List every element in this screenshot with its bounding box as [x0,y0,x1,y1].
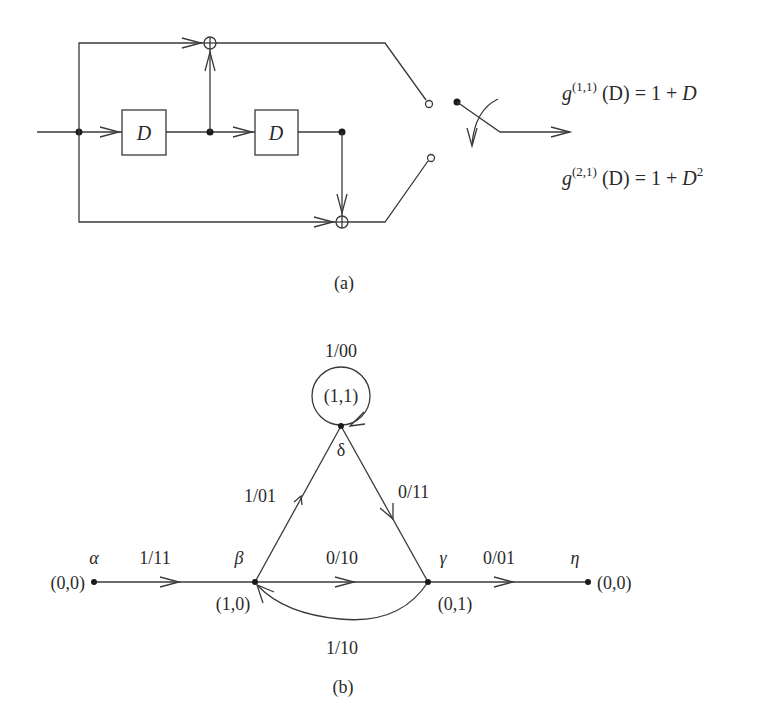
edge-label-delta-gamma: 0/11 [398,482,429,502]
node-gamma [425,579,431,585]
node-delta [338,423,344,429]
generator-1: g(1,1) (D) = 1 + D [562,79,697,105]
xor-adder-top [204,37,216,49]
node-beta [252,579,258,585]
edge-label-gamma-eta: 0/01 [483,548,515,568]
node-state-gamma: (0,1) [438,594,473,615]
edge-label-beta-gamma: 0/10 [326,548,358,568]
node-state-alpha: (0,0) [51,573,86,594]
node-label-alpha: α [89,548,99,568]
state-diagram: 1/11 1/01 1/00 (1,1) δ 0/11 0/10 1/10 0/… [51,341,632,698]
node-state-beta: (1,0) [216,594,251,615]
node-state-eta: (0,0) [597,573,632,594]
arrow-icon [350,412,365,426]
edge-label-delta-loop: 1/00 [325,341,357,361]
top-output-line [216,43,426,100]
node-label-delta: δ [337,440,345,460]
edge-label-beta-delta: 1/01 [244,486,276,506]
bottom-output-line [348,161,428,222]
node-alpha [91,579,97,585]
node-label-eta: η [571,548,580,568]
node-state-delta: (1,1) [324,386,359,407]
switch-contact-top [426,101,433,108]
switch-contact-bottom [428,155,435,162]
caption-a: (a) [334,273,354,294]
delay-label-2: D [268,122,284,144]
edge-label-alpha-beta: 1/11 [139,548,170,568]
xor-adder-bottom [336,216,348,228]
arrow-icon [380,503,393,519]
edge-label-gamma-beta: 1/10 [326,638,358,658]
figure: D D [0,0,762,726]
edge-gamma-beta [258,582,428,620]
caption-b: (b) [333,677,354,698]
encoder-diagram: D D [37,37,703,294]
node-label-gamma: γ [439,548,447,568]
node-eta [585,579,591,585]
generator-2: g(2,1) (D) = 1 + D2 [562,164,703,190]
delay-label-1: D [136,122,152,144]
node-label-beta: β [234,548,244,568]
